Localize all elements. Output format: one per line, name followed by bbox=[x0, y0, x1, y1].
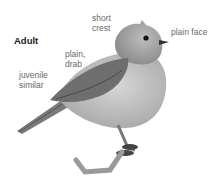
annotation-plain-drab: plain, drab bbox=[65, 49, 85, 69]
annotation-short-crest: short crest bbox=[92, 13, 111, 33]
branch bbox=[76, 152, 122, 172]
head bbox=[115, 20, 162, 64]
annotation-plain-face: plain face bbox=[171, 27, 207, 37]
beak bbox=[159, 40, 169, 45]
figure-title: Adult bbox=[14, 35, 38, 46]
eye bbox=[143, 35, 148, 40]
tail bbox=[17, 100, 70, 134]
annotation-juvenile-similar: juvenile similar bbox=[19, 70, 48, 90]
